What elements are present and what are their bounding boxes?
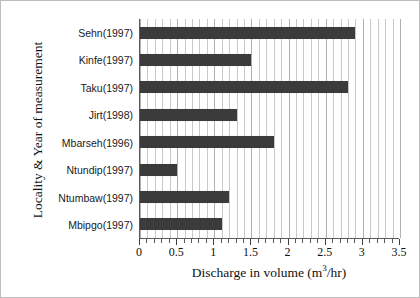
bar-row (140, 183, 399, 210)
x-axis-tickmark (280, 239, 281, 243)
x-axis-tick-label: 3.5 (392, 245, 407, 260)
plot-area (139, 19, 399, 239)
x-axis-tickmark (243, 239, 244, 243)
category-tick: Sehn(1997) (37, 19, 137, 47)
x-axis-tickmark (347, 239, 348, 243)
category-tick: Ntumbaw(1997) (37, 184, 137, 212)
bar (140, 136, 274, 148)
x-axis-tickmark (384, 239, 385, 243)
x-axis-tick-label: 1 (210, 245, 216, 260)
category-label: Jirt(1998) (89, 109, 133, 121)
bar (140, 191, 229, 203)
bar (140, 27, 355, 39)
chart-figure: Locality & Year of measurement Sehn(1997… (0, 0, 420, 298)
x-axis-tick-label: 0.5 (169, 245, 184, 260)
x-axis-tickmark (332, 239, 333, 243)
category-tick: Kinfe(1997) (37, 47, 137, 75)
bar (140, 218, 222, 230)
x-axis-tickmark (302, 239, 303, 243)
bar-row (140, 46, 399, 73)
x-axis-tickmark (295, 239, 296, 243)
category-tick: Ntundip(1997) (37, 157, 137, 185)
bar (140, 54, 251, 66)
x-axis-title-suffix: /hr) (327, 265, 347, 280)
x-axis-tickmark (221, 239, 222, 243)
x-axis-tickmark (198, 239, 199, 243)
category-label: Mbipgo(1997) (68, 219, 133, 231)
bar (140, 81, 348, 93)
x-axis-title-prefix: Discharge in volume (m (192, 265, 323, 280)
x-axis-tickmark (236, 239, 237, 243)
x-axis-tickmark (377, 239, 378, 243)
bar-row (140, 19, 399, 46)
x-axis-tickmark (310, 239, 311, 243)
x-axis-tickmark (392, 239, 393, 243)
x-axis-title: Discharge in volume (m3/hr) (139, 263, 399, 281)
category-tick: Taku(1997) (37, 74, 137, 102)
category-tick: Mbipgo(1997) (37, 212, 137, 240)
x-axis-tickmark (161, 239, 162, 243)
x-axis-tick-labels: 00.511.522.533.5 (139, 245, 399, 261)
gridline (400, 19, 401, 238)
category-tick: Mbarseh(1996) (37, 129, 137, 157)
x-axis-tick-label: 0 (136, 245, 142, 260)
x-axis-tick-label: 1.5 (243, 245, 258, 260)
x-axis-tickmark (146, 239, 147, 243)
category-tick: Jirt(1998) (37, 102, 137, 130)
bar (140, 164, 177, 176)
category-axis: Sehn(1997)Kinfe(1997)Taku(1997)Jirt(1998… (37, 19, 137, 239)
bar-series (140, 19, 399, 238)
x-axis-tickmark (317, 239, 318, 243)
x-axis-tickmark (340, 239, 341, 243)
bar-row (140, 129, 399, 156)
x-axis-tick-label: 2 (285, 245, 291, 260)
bar-row (140, 101, 399, 128)
bar (140, 109, 237, 121)
x-axis-tickmark (169, 239, 170, 243)
x-axis-tick-label: 3 (359, 245, 365, 260)
x-axis-tickmark (273, 239, 274, 243)
category-label: Mbarseh(1996) (62, 137, 133, 149)
x-axis-tick-label: 2.5 (317, 245, 332, 260)
x-axis-tickmark (206, 239, 207, 243)
bar-row (140, 156, 399, 183)
x-axis-tickmark (184, 239, 185, 243)
x-axis-tickmark (154, 239, 155, 243)
category-label: Kinfe(1997) (79, 54, 133, 66)
category-label: Ntundip(1997) (66, 164, 133, 176)
bar-row (140, 74, 399, 101)
x-axis-tickmark (228, 239, 229, 243)
category-label: Sehn(1997) (78, 27, 133, 39)
x-axis-tickmark (265, 239, 266, 243)
category-label: Taku(1997) (80, 82, 133, 94)
x-axis-tickmark (191, 239, 192, 243)
bar-row (140, 211, 399, 238)
category-label: Ntumbaw(1997) (58, 192, 133, 204)
x-axis-tickmark (258, 239, 259, 243)
x-axis-tickmark (354, 239, 355, 243)
x-axis-tickmark (369, 239, 370, 243)
